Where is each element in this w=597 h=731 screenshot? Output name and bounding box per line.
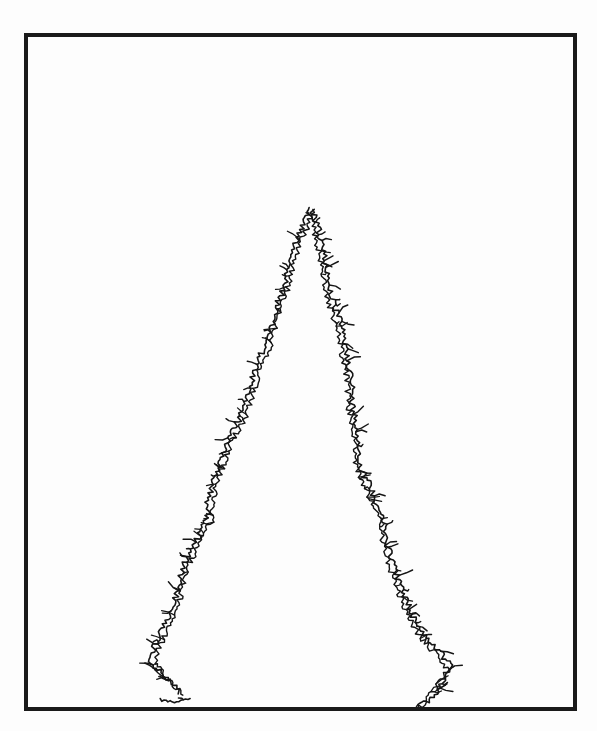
fractal-figure [0, 0, 597, 731]
page-background [0, 0, 597, 731]
